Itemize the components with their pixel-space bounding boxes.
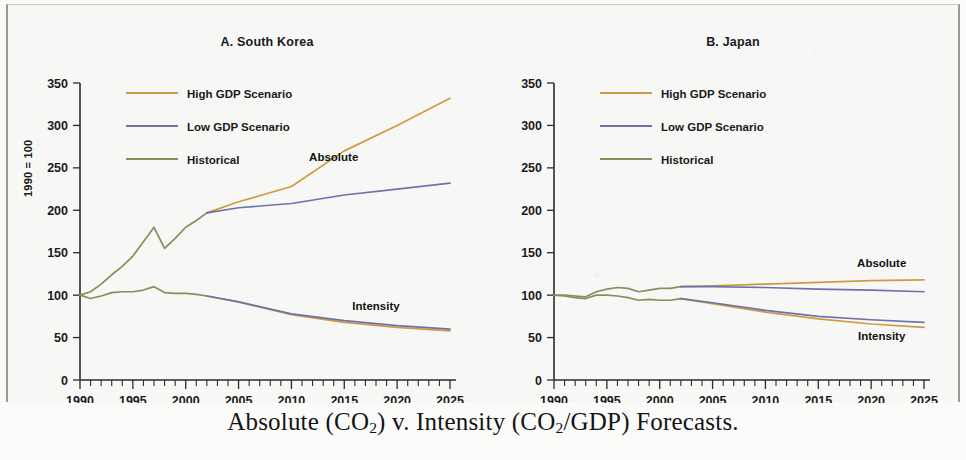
svg-text:2025: 2025 (436, 394, 464, 403)
legend-label: Historical (661, 154, 713, 166)
legend-label: High GDP Scenario (661, 88, 766, 100)
legend-label: Low GDP Scenario (661, 121, 764, 133)
svg-text:250: 250 (47, 161, 68, 175)
svg-text:350: 350 (47, 77, 68, 91)
series-line (681, 299, 924, 323)
svg-text:2020: 2020 (857, 394, 885, 403)
svg-text:1990: 1990 (540, 394, 568, 403)
annotation-label: Absolute (857, 257, 906, 269)
annotation-label: Absolute (309, 151, 358, 163)
series-line (681, 287, 924, 292)
svg-text:350: 350 (521, 77, 542, 91)
svg-text:200: 200 (47, 204, 68, 218)
svg-text:2000: 2000 (172, 394, 200, 403)
caption-sub-1: 2 (369, 419, 377, 436)
series-line (80, 287, 207, 299)
legend-label: Low GDP Scenario (187, 121, 290, 133)
plot-south-korea: 0501001502002503003501990199520002005201… (8, 5, 486, 403)
series-line (80, 213, 207, 295)
figure-caption: Absolute (CO2) v. Intensity (CO2/GDP) Fo… (0, 408, 966, 437)
svg-text:150: 150 (47, 246, 68, 260)
svg-text:300: 300 (521, 119, 542, 133)
svg-text:1995: 1995 (593, 394, 621, 403)
legend-label: High GDP Scenario (187, 88, 292, 100)
svg-text:2025: 2025 (910, 394, 938, 403)
figure-area: A. South Korea 1990 = 100 05010015020025… (6, 4, 960, 402)
svg-text:0: 0 (61, 374, 68, 388)
caption-prefix: Absolute (CO (227, 408, 369, 435)
annotation-label: Intensity (352, 300, 400, 312)
series-line (681, 280, 924, 287)
svg-text:0: 0 (535, 374, 542, 388)
svg-text:1990: 1990 (66, 394, 94, 403)
svg-text:200: 200 (521, 204, 542, 218)
svg-text:250: 250 (521, 161, 542, 175)
series-line (207, 183, 450, 213)
svg-text:1995: 1995 (119, 394, 147, 403)
svg-text:150: 150 (521, 246, 542, 260)
annotation-label: Intensity (858, 330, 906, 342)
series-line (207, 296, 450, 331)
plot-japan: 0501001502002503003501990199520002005201… (486, 5, 960, 403)
svg-text:2010: 2010 (278, 394, 306, 403)
svg-text:2005: 2005 (225, 394, 253, 403)
panel-south-korea: A. South Korea 1990 = 100 05010015020025… (8, 5, 486, 403)
svg-text:2010: 2010 (752, 394, 780, 403)
figure-page: A. South Korea 1990 = 100 05010015020025… (0, 0, 966, 460)
caption-suffix: /GDP) Forecasts. (563, 408, 738, 435)
svg-text:2020: 2020 (383, 394, 411, 403)
svg-text:50: 50 (528, 331, 542, 345)
svg-text:2000: 2000 (646, 394, 674, 403)
svg-text:2015: 2015 (804, 394, 832, 403)
series-line (207, 296, 450, 329)
svg-text:100: 100 (521, 289, 542, 303)
panel-japan: B. Japan 0501001502002503003501990199520… (486, 5, 960, 403)
svg-text:2005: 2005 (699, 394, 727, 403)
svg-text:2015: 2015 (330, 394, 358, 403)
legend-label: Historical (187, 154, 239, 166)
svg-text:300: 300 (47, 119, 68, 133)
caption-middle: ) v. Intensity (CO (377, 408, 555, 435)
svg-text:50: 50 (54, 331, 68, 345)
svg-text:100: 100 (47, 289, 68, 303)
